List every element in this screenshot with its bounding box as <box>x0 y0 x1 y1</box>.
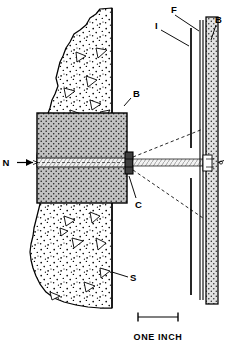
beam-exit-tick <box>218 161 224 165</box>
label-block-right: B <box>215 14 222 25</box>
label-block-left: B <box>133 88 140 99</box>
label-film: F <box>171 4 177 15</box>
neutron-beam-arrow <box>17 161 38 165</box>
label-intensifier: I <box>155 20 158 31</box>
figure-canvas: N B C S F I B ONE INCH <box>0 0 230 347</box>
label-neutron-beam: N <box>3 157 10 168</box>
scale-bar-caption: ONE INCH <box>134 332 183 342</box>
scale-bar <box>138 313 178 322</box>
beam-axis <box>133 159 206 166</box>
collimator-aperture <box>125 152 133 174</box>
right-block-window <box>203 155 214 171</box>
label-collimator: C <box>135 199 142 210</box>
beam-channel <box>37 158 127 167</box>
beam-cone-dashed <box>133 129 210 218</box>
label-specimen: S <box>130 272 136 283</box>
